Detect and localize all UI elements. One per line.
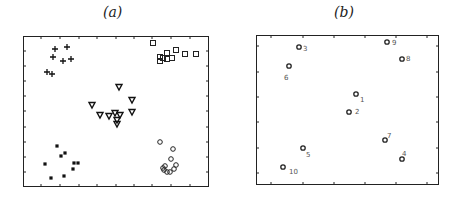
filled-square-marker	[72, 161, 75, 164]
circle-marker	[385, 40, 389, 44]
circle-marker	[169, 157, 174, 162]
triangle-marker	[106, 114, 112, 120]
circle-marker	[297, 45, 301, 49]
point-label: 10	[289, 168, 298, 176]
circle-marker	[287, 64, 291, 68]
point-label: 2	[355, 108, 359, 116]
triangle-marker	[97, 113, 103, 119]
circle-marker	[347, 110, 351, 114]
filled-square-marker	[71, 167, 74, 170]
point-label: 9	[392, 39, 396, 47]
circle-marker	[301, 146, 305, 150]
plus-marker	[68, 56, 74, 62]
circle-marker	[400, 57, 404, 61]
circle-marker	[281, 165, 285, 169]
triangle-marker	[129, 98, 135, 104]
plus-marker	[60, 58, 66, 64]
circle-marker	[354, 92, 358, 96]
point-label: 3	[303, 45, 307, 53]
point-label: 6	[284, 74, 289, 82]
square-marker	[151, 41, 156, 46]
filled-square-marker	[59, 154, 62, 157]
triangle-marker	[89, 103, 95, 109]
filled-square-marker	[63, 151, 66, 154]
filled-square-marker	[43, 162, 46, 165]
point-label: 4	[402, 150, 407, 158]
filled-square-marker	[55, 144, 58, 147]
filled-square-marker	[76, 161, 79, 164]
filled-square-marker	[62, 174, 65, 177]
square-marker	[194, 52, 199, 57]
circle-marker	[174, 163, 179, 168]
filled-square-marker	[49, 176, 52, 179]
square-marker	[174, 48, 179, 53]
circle-marker	[158, 140, 163, 145]
point-label: 8	[406, 55, 410, 63]
square-marker	[165, 51, 170, 56]
triangle-marker	[116, 85, 122, 91]
square-marker	[170, 56, 175, 61]
plus-marker	[50, 54, 56, 60]
square-marker	[183, 52, 188, 57]
scatter-plots-canvas: 12345678910	[0, 0, 462, 200]
plus-marker	[52, 46, 58, 52]
point-label: 7	[387, 132, 391, 140]
triangle-marker	[129, 110, 135, 116]
circle-marker	[171, 147, 176, 152]
point-label: 1	[360, 96, 364, 104]
point-label: 5	[306, 151, 310, 159]
plus-marker	[64, 44, 70, 50]
